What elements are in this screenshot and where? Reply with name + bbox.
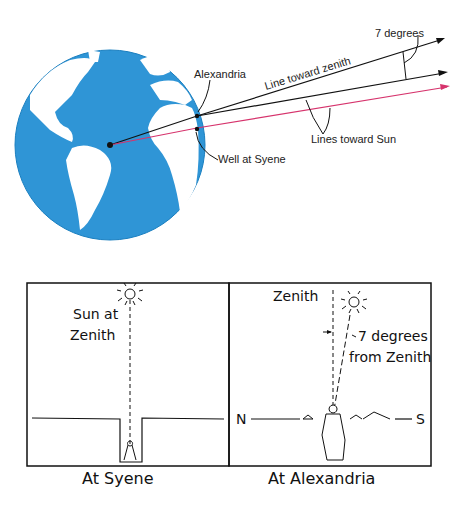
zenith-label-syene: Zenith <box>70 327 115 343</box>
north-label: N <box>236 411 246 427</box>
panel-syene <box>27 283 229 466</box>
caption-at-syene: At Syene <box>82 469 153 488</box>
well-at-syene-label: Well at Syene <box>218 153 286 165</box>
alexandria-label: Alexandria <box>194 68 247 80</box>
panel-alexandria <box>229 283 431 466</box>
from-zenith-label: from Zenith <box>349 349 431 365</box>
seven-degrees-label: 7 degrees <box>375 27 424 39</box>
eratosthenes-diagram: Alexandria Well at Syene Line toward zen… <box>0 0 467 514</box>
lines-toward-sun-label: Lines toward Sun <box>311 133 396 145</box>
seven-degrees-from-label: 7 degrees <box>358 328 428 344</box>
south-label: S <box>416 411 425 427</box>
line-toward-zenith-label: Line toward zenith <box>263 54 352 92</box>
caption-at-alexandria: At Alexandria <box>268 469 375 488</box>
zenith-label-alexandria: Zenith <box>273 288 318 304</box>
sun-at-label: Sun at <box>73 306 119 322</box>
